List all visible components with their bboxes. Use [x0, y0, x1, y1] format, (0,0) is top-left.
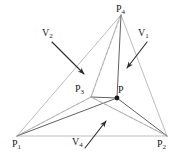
arrow-v1 — [127, 42, 147, 68]
segment-p3-p4-visible — [91, 16, 120, 97]
arrow-v4 — [85, 121, 106, 148]
label-p-base: P — [118, 84, 124, 95]
edge-p1-p4 — [17, 15, 121, 136]
label-v2: V2 — [42, 28, 53, 38]
label-p4-sub: 4 — [122, 8, 126, 16]
annotation-arrows — [52, 42, 147, 148]
segment-p-p1 — [17, 98, 117, 136]
label-p1-base: P — [12, 138, 18, 149]
segment-p3-p1 — [17, 97, 91, 136]
label-p4-base: P — [116, 3, 122, 14]
label-p1: P1 — [12, 139, 21, 149]
label-v4-sub: 4 — [79, 141, 83, 149]
label-p4: P4 — [116, 4, 125, 14]
label-v2-sub: 2 — [49, 32, 53, 40]
label-v1-sub: 1 — [145, 32, 149, 40]
segment-p-p3 — [91, 97, 117, 98]
label-p1-sub: 1 — [18, 143, 22, 151]
point-marker-p — [115, 96, 120, 101]
label-p3: P3 — [75, 84, 84, 94]
segment-p3-p2 — [91, 97, 167, 136]
label-p2-base: P — [157, 138, 163, 149]
label-p3-sub: 3 — [81, 88, 85, 96]
label-p2: P2 — [157, 139, 166, 149]
label-v1: V1 — [138, 28, 149, 38]
tetrahedron-figure: P4 V2 V1 P3 P P1 P2 V4 — [0, 0, 185, 158]
label-p2-sub: 2 — [163, 143, 167, 151]
label-p3-base: P — [75, 83, 81, 94]
label-v4: V4 — [72, 137, 83, 147]
label-p: P — [118, 85, 124, 95]
arrow-v2 — [52, 42, 84, 74]
figure-canvas — [0, 0, 185, 158]
